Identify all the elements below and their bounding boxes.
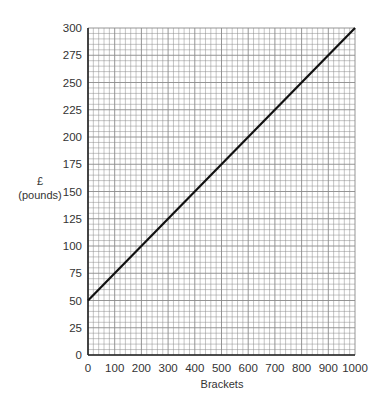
x-tick-label: 0	[85, 362, 91, 374]
y-axis-label-symbol: £	[37, 175, 43, 187]
x-tick-label: 500	[212, 362, 231, 374]
y-tick-label: 250	[63, 77, 82, 89]
y-tick-label: 150	[63, 186, 82, 198]
y-tick-label: 275	[63, 49, 82, 61]
y-tick-label: 0	[76, 349, 82, 361]
x-tick-label: 800	[292, 362, 311, 374]
y-tick-label: 100	[63, 240, 82, 252]
y-tick-label: 75	[69, 267, 82, 279]
x-tick-label: 100	[105, 362, 124, 374]
x-tick-label: 300	[159, 362, 178, 374]
y-tick-label: 225	[63, 104, 82, 116]
y-tick-label: 175	[63, 158, 82, 170]
x-tick-label: 1000	[342, 362, 368, 374]
x-tick-label: 700	[265, 362, 284, 374]
grid	[88, 28, 355, 355]
y-tick-label: 300	[63, 22, 82, 34]
y-tick-label: 25	[69, 322, 82, 334]
x-axis-label: Brackets	[201, 378, 244, 390]
x-tick-label: 600	[239, 362, 258, 374]
x-tick-labels: 01002003004005006007008009001000	[85, 362, 368, 374]
line-chart: 0255075100125150175200225250275300 01002…	[0, 0, 385, 409]
x-tick-label: 400	[185, 362, 204, 374]
y-tick-label: 50	[69, 295, 82, 307]
x-tick-label: 200	[132, 362, 151, 374]
y-tick-label: 200	[63, 131, 82, 143]
y-tick-label: 125	[63, 213, 82, 225]
x-tick-label: 900	[319, 362, 338, 374]
y-axis-label-unit: (pounds)	[18, 189, 61, 201]
y-tick-labels: 0255075100125150175200225250275300	[63, 22, 82, 361]
